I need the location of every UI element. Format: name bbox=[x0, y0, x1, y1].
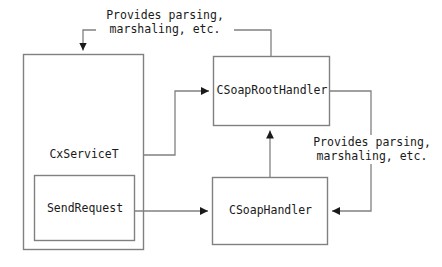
node-label-csoaphandler: CSoapHandler bbox=[213, 204, 328, 217]
edge-csoaproothandler-to-csoaphandler-tail bbox=[332, 164, 371, 211]
edge-csoaproothandler-to-csoaphandler-head bbox=[330, 91, 371, 135]
block-diagram: CxServiceT SendRequest CSoapRootHandler … bbox=[0, 0, 442, 267]
edge-label-right: Provides parsing, marshaling, etc. bbox=[303, 135, 441, 163]
edge-cxservicet-to-csoaproothandler bbox=[144, 91, 209, 155]
node-label-csoaproothandler: CSoapRootHandler bbox=[214, 84, 330, 97]
edge-csoaproothandler-to-cxservicet bbox=[228, 30, 271, 56]
node-label-sendrequest: SendRequest bbox=[35, 202, 135, 215]
edge-label-top: Provides parsing, marshaling, etc. bbox=[96, 8, 234, 36]
edge-csoaproothandler-to-cxservicet-tail bbox=[83, 30, 96, 51]
node-label-cxservicet: CxServiceT bbox=[24, 148, 144, 161]
diagram-canvas bbox=[0, 0, 442, 267]
edge-label-top-line1: Provides parsing, bbox=[99, 8, 231, 22]
edge-label-right-line1: Provides parsing, bbox=[306, 135, 438, 149]
edge-label-right-line2: marshaling, etc. bbox=[306, 149, 438, 163]
edge-label-top-line2: marshaling, etc. bbox=[99, 22, 231, 36]
